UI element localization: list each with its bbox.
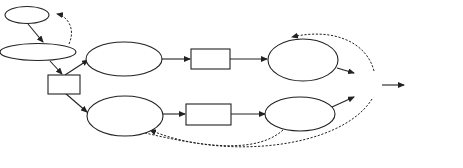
node-unmasked-output [191, 49, 230, 69]
edge-auditing-to-original-data [50, 61, 62, 74]
node-privacy-anonymization [87, 96, 163, 136]
node-anonymized-data [186, 104, 231, 125]
edge-original-data-to-statistical [65, 60, 88, 75]
flow-diagram [0, 0, 463, 168]
node-original-data [48, 75, 80, 94]
edge-privacy-to-utility [332, 97, 354, 107]
node-query-auditing [0, 44, 76, 61]
edge-original-data-to-anonymization [65, 93, 87, 112]
node-privacy-measurements [265, 97, 335, 131]
node-query [5, 7, 49, 24]
node-statistical-analysis [86, 42, 162, 76]
node-privacy-output-control [268, 39, 338, 81]
edge-output-control-to-utility [337, 68, 354, 73]
edge-query-to-auditing [28, 24, 43, 42]
edge-utility-to-anonymization-feedback [150, 99, 372, 147]
edge-auditing-to-query-feedback [57, 14, 71, 44]
